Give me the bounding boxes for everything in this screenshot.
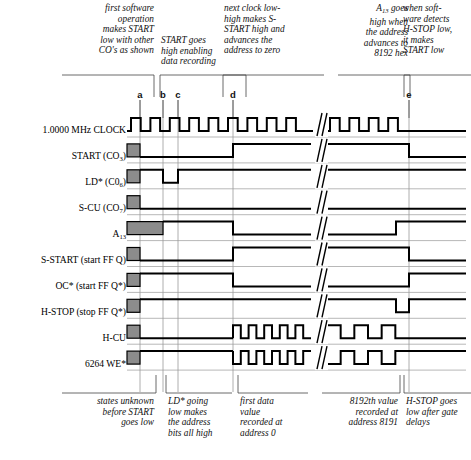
signal-label-clock: 1.0000 MHz CLOCK [43,124,126,135]
unknown-state-block [127,248,140,261]
label-tail: ) [123,202,126,213]
break-slash [317,346,322,369]
burst-pulses-right [327,325,409,338]
break-slash [322,165,327,188]
caption-line: LD* going [168,396,230,407]
clock-trace-right [327,118,466,131]
break-slash [317,113,322,136]
break-slash [322,139,327,162]
break-slash [322,113,327,136]
break-slash [317,243,322,266]
break-slash [322,243,327,266]
signal-label-oc: OC* (start FF Q*) [55,280,126,291]
label-base: OC* (start FF Q*) [55,280,126,291]
break-slash [322,268,327,291]
caption-first-data: first data value recorded at address 0 [240,396,306,438]
break-mask [315,164,328,189]
break-slash [322,268,327,291]
break-slash [322,320,327,343]
caption-line: states unknown [60,396,154,407]
signal-label-column: 1.0000 MHz CLOCK START (CO3) LD* (C06) S… [0,0,126,460]
caption-line: 8192th value [324,396,398,407]
signal-label-scu: S-CU (CO7) [79,202,126,214]
break-slash [317,268,322,291]
break-slash [322,320,327,343]
unknown-state-block [127,170,140,183]
note-line: next clock low- [224,3,324,14]
caption-line: value [240,407,306,418]
break-slash [317,217,322,240]
note-line: H-STOP low, [403,24,471,35]
break-mask [315,319,328,344]
break-slash [317,294,322,317]
unknown-state-block [127,222,163,235]
caption-line: goes low [60,417,154,428]
level-trace-left [163,222,311,235]
annotation-note-next-clock: next clock low- high makes S- START high… [224,3,324,56]
marker-label-a: a [135,89,145,100]
caption-line: low makes [168,407,230,418]
level-trace-left [140,248,311,261]
note-line: high when [338,17,408,28]
clock-label-text: 1.0000 MHz CLOCK [43,124,126,135]
break-mask [315,216,328,241]
note-line: high makes S- [224,14,324,25]
break-slash [317,320,322,343]
note-line: START high and [224,24,324,35]
break-mask [315,190,328,215]
level-trace-left [140,170,311,183]
marker-label-e: e [404,89,414,100]
unknown-state-block [127,325,140,338]
note-line: it makes [403,35,471,46]
break-slash [317,294,322,317]
caption-line: delays [406,417,471,428]
break-slash [317,113,322,136]
break-slash [317,191,322,214]
note-line: advances the [224,35,324,46]
break-slash [317,165,322,188]
note-line: when soft- [403,3,471,14]
marker-label-c: c [173,89,183,100]
level-trace-right [327,248,466,261]
break-mask [315,242,328,267]
burst-pulses-left [233,325,311,338]
signal-label-a13: A13 [112,228,126,240]
caption-line: H-STOP goes [406,396,471,407]
caption-line: address 0 [240,428,306,439]
break-slash [322,294,327,317]
label-base: S-START (start FF Q) [41,254,126,265]
break-slash [322,217,327,240]
break-slash [322,165,327,188]
note-line: the address [338,27,408,38]
break-slash [322,191,327,214]
break-mask [315,112,328,137]
label-sub: 13 [119,233,126,240]
burst-pulses-right [327,351,409,364]
level-trace-right [327,222,466,235]
label-tail: ) [123,176,126,187]
break-slash [317,243,322,266]
break-slash [322,191,327,214]
annotation-note-a13: A13 goes high when the address advances … [338,3,408,59]
label-base: H-CU [103,332,126,343]
break-slash [317,217,322,240]
annotation-note-software-detect: when soft- ware detects H-STOP low, it m… [403,3,471,56]
caption-line: recorded at [240,417,306,428]
note-line: 8192 hex [338,48,408,59]
break-slash [322,113,327,136]
level-trace-left [140,144,311,157]
caption-line: before START [60,407,154,418]
caption-line: low after gate [406,407,471,418]
caption-line: first data [240,396,306,407]
break-slash [317,320,322,343]
unknown-state-block [127,144,140,157]
label-tail: ) [123,150,126,161]
clock-trace-left [127,118,313,131]
signal-label-we: 6264 WE* [85,358,126,369]
caption-line: recorded at [324,407,398,418]
level-trace-right [327,144,466,157]
note-line: A13 goes [338,3,408,17]
signal-label-ld: LD* (C06) [85,176,126,188]
note-line: data recording [161,56,247,67]
break-slash [317,191,322,214]
